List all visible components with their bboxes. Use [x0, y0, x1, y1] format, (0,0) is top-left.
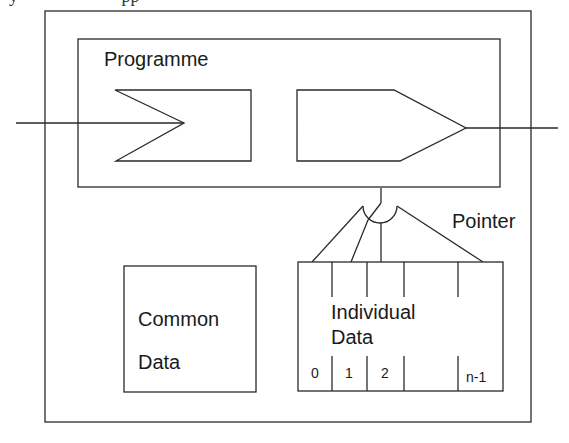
programme-label: Programme	[104, 49, 208, 69]
cropped-caption: y pp	[0, 0, 140, 7]
slot-label-2: 2	[381, 366, 389, 380]
pointer-label: Pointer	[452, 211, 515, 231]
diagram-canvas: y pp Programme Pointer Common Data Indiv…	[0, 0, 569, 443]
common-data-label-line1: Common	[138, 309, 219, 329]
individual-data-label-line2: Data	[331, 327, 373, 347]
common-data-label-line2: Data	[138, 352, 180, 372]
slot-label-n-1: n-1	[466, 370, 486, 384]
slot-label-1: 1	[345, 366, 353, 380]
slot-label-0: 0	[311, 366, 319, 380]
individual-data-label-line1: Individual	[331, 302, 416, 322]
